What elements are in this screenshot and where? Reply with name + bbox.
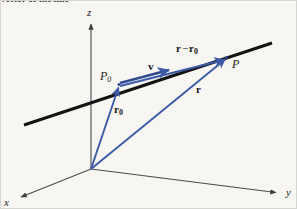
vector-label-v: v [148,61,154,72]
axis-x [21,169,91,197]
vector-label-v-base: v [148,60,154,72]
point-P-dot [225,56,228,59]
vector-line-diagram: vector of the line [0,0,297,209]
point-label-P: P [232,58,239,70]
axis-y [91,169,276,193]
vector-label-r0-subscript: 0 [119,108,123,117]
point-P0-dot [118,83,121,86]
minus-operator: − [181,42,189,54]
diagram-canvas [1,1,297,209]
vector-label-r-minus-r0: r−r0 [176,43,198,56]
vector-label-r: r [196,84,201,95]
vector-label-diff-subscript: 0 [194,47,198,56]
vector-label-r0: r0 [114,104,123,117]
axis-label-z: z [87,7,91,18]
point-label-P-base: P [232,57,239,71]
line-through-points [24,43,272,125]
axis-label-x: x [4,197,9,208]
point-label-P0: P0 [100,70,111,84]
axis-label-y: y [286,187,291,198]
vector-label-r-base: r [196,83,201,95]
axes-group [21,24,276,197]
point-label-P0-subscript: 0 [107,75,111,84]
